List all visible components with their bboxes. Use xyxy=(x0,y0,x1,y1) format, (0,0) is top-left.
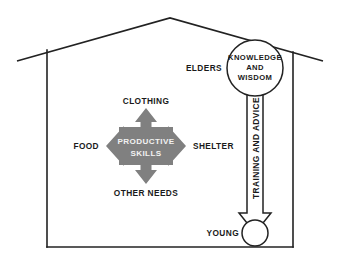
output-label-clothing: CLOTHING xyxy=(123,96,170,106)
output-label-shelter: SHELTER xyxy=(193,141,234,151)
young-circle xyxy=(242,220,268,246)
elders-circle-line2: AND xyxy=(246,63,264,72)
output-label-food: FOOD xyxy=(73,141,99,151)
productive-skills-line1: PRODUCTIVE xyxy=(117,137,174,146)
elders-circle-line1: KNOWLEDGE xyxy=(228,53,282,62)
productive-skills-cross: PRODUCTIVE SKILLS xyxy=(106,108,186,184)
cross-center-block xyxy=(119,127,173,165)
household-skills-diagram: PRODUCTIVE SKILLS CLOTHING SHELTER OTHER… xyxy=(0,0,340,262)
training-and-advice-arrow: TRAINING AND ADVICE xyxy=(239,78,271,233)
young-node: YOUNG xyxy=(207,220,268,246)
diagram-canvas: PRODUCTIVE SKILLS CLOTHING SHELTER OTHER… xyxy=(0,0,340,262)
productive-skills-line2: SKILLS xyxy=(130,149,161,158)
elders-label: ELDERS xyxy=(186,63,222,73)
elders-node: KNOWLEDGE AND WISDOM ELDERS xyxy=(186,40,283,96)
training-and-advice-label: TRAINING AND ADVICE xyxy=(251,97,261,199)
young-label: YOUNG xyxy=(207,228,239,238)
output-label-other-needs: OTHER NEEDS xyxy=(114,188,178,198)
elders-circle-line3: WISDOM xyxy=(238,73,272,82)
